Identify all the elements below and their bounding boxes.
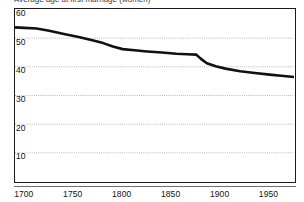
x-axis-line	[14, 186, 296, 187]
data-series-layer	[15, 27, 294, 77]
x-tick-label-1900: 1900	[204, 190, 236, 199]
y-tick-label-30: 30	[16, 95, 26, 104]
chart-caption: Average age at first marriage (women)	[14, 0, 294, 4]
data-line-series-1	[15, 27, 294, 77]
x-tick-label-1750: 1750	[57, 190, 89, 199]
x-tick-label-1850: 1850	[155, 190, 187, 199]
y-tick-label-40: 40	[16, 66, 26, 75]
y-tick-label-50: 50	[16, 38, 26, 47]
y-tick-label-20: 20	[16, 124, 26, 133]
x-tick-label-1700: 1700	[8, 190, 40, 199]
x-tick-label-1800: 1800	[106, 190, 138, 199]
gridlines	[15, 38, 294, 153]
x-tick-label-1950: 1950	[253, 190, 285, 199]
chart-container: Average age at first marriage (women) 60…	[0, 0, 304, 202]
y-tick-label-60: 60	[16, 9, 26, 18]
y-tick-label-10: 10	[16, 152, 26, 161]
plot-frame	[14, 8, 296, 183]
plot-area	[15, 9, 294, 181]
